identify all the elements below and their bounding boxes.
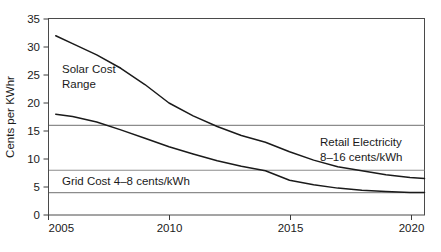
x-tick-label-2015: 2015	[278, 222, 304, 234]
x-tick-label-2005: 2005	[49, 222, 75, 234]
x-tick-label-2010: 2010	[157, 222, 183, 234]
solar-cost-chart: 0 5 10 15 20 25 30 35 2005 2010 2015 202…	[0, 0, 441, 252]
y-tick-label-35: 35	[27, 13, 40, 25]
solar-cost-range-label-line1: Solar Cost	[62, 63, 116, 75]
chart-canvas: 0 5 10 15 20 25 30 35 2005 2010 2015 202…	[0, 0, 441, 252]
x-axis-tick-labels: 2005 2010 2015 2020	[49, 222, 425, 234]
y-tick-label-10: 10	[27, 153, 40, 165]
y-axis-ticks	[44, 19, 49, 215]
y-axis-title: Cents per KWhr	[4, 76, 16, 158]
y-axis-tick-labels: 0 5 10 15 20 25 30 35	[27, 13, 40, 221]
y-tick-label-20: 20	[27, 97, 40, 109]
y-tick-label-15: 15	[27, 125, 40, 137]
grid-cost-label: Grid Cost 4–8 cents/kWh	[62, 175, 190, 187]
y-tick-label-0: 0	[34, 209, 40, 221]
x-tick-label-2020: 2020	[399, 222, 425, 234]
retail-electricity-label-line1: Retail Electricity	[320, 136, 402, 148]
y-tick-label-25: 25	[27, 69, 40, 81]
solar-cost-range-label-line2: Range	[62, 78, 96, 90]
retail-electricity-label-line2: 8–16 cents/kWh	[320, 151, 402, 163]
y-tick-label-5: 5	[34, 181, 40, 193]
y-tick-label-30: 30	[27, 41, 40, 53]
x-axis-ticks	[49, 215, 412, 220]
